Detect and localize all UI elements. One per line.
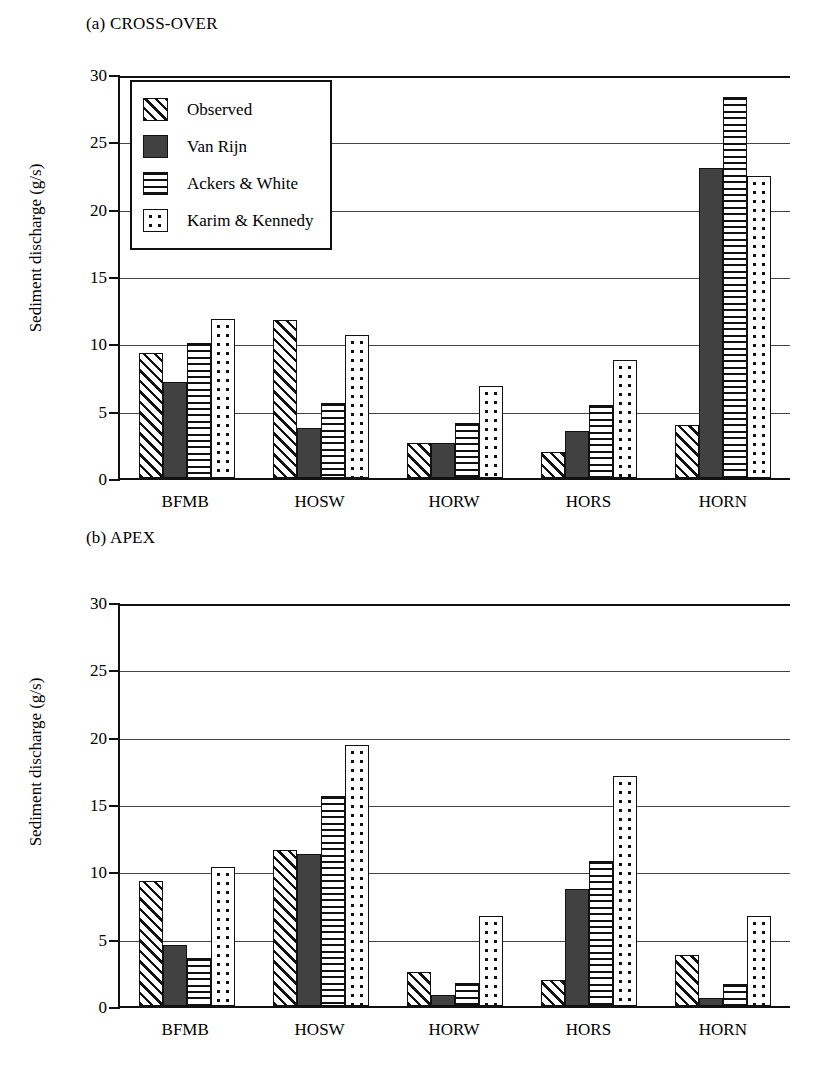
y-tick-label-15: 15 — [90, 268, 107, 288]
panel-a-x-tick-labels: BFMBHOSWHORWHORSHORN — [118, 492, 790, 512]
x-tick-label-horn: HORN — [656, 492, 790, 512]
x-tick-label-hosw: HOSW — [252, 492, 386, 512]
y-tick-mark-15 — [109, 805, 120, 807]
bar-bfmb-ackers-white — [187, 958, 211, 1006]
bar-horw-karim-kennedy — [479, 386, 503, 478]
bar-hors-van-rijn — [565, 431, 589, 478]
legend-item-van-rijn: Van Rijn — [143, 128, 314, 165]
panel-b-plot-area: 302520151050 — [118, 604, 790, 1008]
y-tick-mark-30 — [109, 75, 120, 77]
y-tick-mark-20 — [109, 210, 120, 212]
bar-horw-karim-kennedy — [479, 916, 503, 1006]
bar-hors-ackers-white — [589, 861, 613, 1006]
panel-a-legend: ObservedVan RijnAckers & WhiteKarim & Ke… — [130, 80, 332, 250]
y-tick-label-30: 30 — [90, 594, 107, 614]
y-tick-label-25: 25 — [90, 661, 107, 681]
bar-bfmb-observed — [139, 881, 163, 1006]
bar-bfmb-karim-kennedy — [211, 319, 235, 478]
panel-b-bar-groups — [120, 604, 790, 1006]
bar-hors-observed — [541, 452, 565, 478]
legend-label: Ackers & White — [187, 174, 298, 194]
bar-group-horn — [656, 604, 790, 1006]
x-tick-label-bfmb: BFMB — [118, 492, 252, 512]
bar-horw-ackers-white — [455, 423, 479, 478]
bar-hors-ackers-white — [589, 405, 613, 478]
y-tick-label-5: 5 — [99, 930, 108, 950]
bar-group-horn — [656, 76, 790, 478]
panel-a-title: (a) CROSS-OVER — [86, 14, 218, 34]
bar-horw-observed — [407, 443, 431, 478]
bar-group-horw — [388, 76, 522, 478]
x-tick-label-horw: HORW — [387, 492, 521, 512]
y-tick-mark-30 — [109, 603, 120, 605]
bar-hors-karim-kennedy — [613, 776, 637, 1006]
panel-a-y-axis-label: Sediment discharge (g/s) — [26, 128, 46, 368]
bar-group-bfmb — [120, 604, 254, 1006]
bar-bfmb-karim-kennedy — [211, 867, 235, 1006]
bar-bfmb-observed — [139, 353, 163, 478]
x-tick-label-hors: HORS — [521, 1020, 655, 1040]
bar-horn-ackers-white — [723, 984, 747, 1006]
bar-hors-observed — [541, 980, 565, 1006]
bar-group-hors — [522, 76, 656, 478]
bar-horn-observed — [675, 955, 699, 1006]
y-tick-label-15: 15 — [90, 796, 107, 816]
bar-horn-karim-kennedy — [747, 176, 771, 478]
panel-b-y-axis-label: Sediment discharge (g/s) — [26, 642, 46, 882]
y-tick-mark-10 — [109, 344, 120, 346]
y-tick-mark-25 — [109, 142, 120, 144]
legend-swatch-horizontal-lines-icon — [143, 172, 168, 195]
bar-hosw-karim-kennedy — [345, 335, 369, 478]
x-tick-label-hosw: HOSW — [252, 1020, 386, 1040]
chart-panel-b: (b) APEX Sediment discharge (g/s) 302520… — [0, 528, 823, 1068]
legend-item-observed: Observed — [143, 91, 314, 128]
y-tick-label-10: 10 — [90, 335, 107, 355]
bar-horw-observed — [407, 972, 431, 1006]
bar-bfmb-ackers-white — [187, 343, 211, 478]
bar-bfmb-van-rijn — [163, 382, 187, 478]
y-tick-label-20: 20 — [90, 200, 107, 220]
bar-horn-ackers-white — [723, 97, 747, 478]
bar-hors-van-rijn — [565, 889, 589, 1006]
bar-group-hosw — [254, 604, 388, 1006]
legend-label: Observed — [187, 100, 252, 120]
y-tick-mark-10 — [109, 872, 120, 874]
legend-swatch-solid-dark-icon — [143, 135, 168, 158]
legend-label: Karim & Kennedy — [187, 211, 314, 231]
bar-horn-karim-kennedy — [747, 916, 771, 1006]
chart-panel-a: (a) CROSS-OVER Sediment discharge (g/s) … — [0, 14, 823, 534]
y-tick-label-20: 20 — [90, 728, 107, 748]
bar-bfmb-van-rijn — [163, 945, 187, 1006]
y-tick-mark-5 — [109, 412, 120, 414]
panel-b-x-tick-labels: BFMBHOSWHORWHORSHORN — [118, 1020, 790, 1040]
bar-horn-van-rijn — [699, 168, 723, 478]
legend-swatch-diagonal-hatch-icon — [143, 98, 168, 121]
bar-horw-ackers-white — [455, 983, 479, 1006]
bar-hosw-van-rijn — [297, 428, 321, 478]
bar-horn-van-rijn — [699, 998, 723, 1006]
bar-hosw-van-rijn — [297, 854, 321, 1006]
y-tick-mark-15 — [109, 277, 120, 279]
bar-hosw-karim-kennedy — [345, 745, 369, 1006]
bar-hosw-observed — [273, 320, 297, 478]
bar-group-hors — [522, 604, 656, 1006]
y-tick-label-30: 30 — [90, 66, 107, 86]
x-tick-label-bfmb: BFMB — [118, 1020, 252, 1040]
legend-label: Van Rijn — [187, 137, 247, 157]
y-tick-label-25: 25 — [90, 133, 107, 153]
bar-hosw-ackers-white — [321, 796, 345, 1006]
legend-swatch-dotted-icon — [143, 209, 168, 232]
figure-page: (a) CROSS-OVER Sediment discharge (g/s) … — [0, 0, 823, 1078]
y-tick-mark-25 — [109, 670, 120, 672]
y-tick-mark-0 — [109, 1007, 120, 1009]
y-tick-mark-20 — [109, 738, 120, 740]
bar-hors-karim-kennedy — [613, 360, 637, 479]
y-tick-mark-0 — [109, 479, 120, 481]
y-tick-label-10: 10 — [90, 863, 107, 883]
y-tick-label-0: 0 — [99, 470, 108, 490]
y-tick-mark-5 — [109, 940, 120, 942]
bar-hosw-observed — [273, 850, 297, 1006]
bar-group-horw — [388, 604, 522, 1006]
y-tick-label-5: 5 — [99, 402, 108, 422]
bar-horw-van-rijn — [431, 443, 455, 478]
